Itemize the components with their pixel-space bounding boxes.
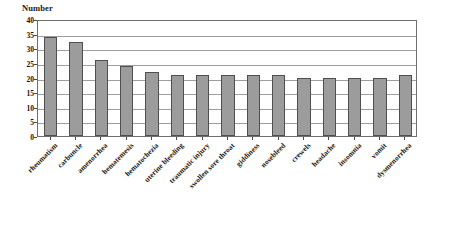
x-axis-tick-mark [303, 137, 304, 140]
x-axis-tick-mark [252, 137, 253, 140]
y-axis-tick-label: 25 [4, 59, 34, 68]
x-axis-tick-mark [404, 137, 405, 140]
bar [171, 75, 184, 136]
bar [221, 75, 234, 136]
bar [373, 78, 386, 137]
y-axis-tick-mark [34, 137, 37, 138]
x-axis-tick-label: vomit [369, 141, 388, 160]
bar [323, 78, 336, 137]
y-axis-tick-label: 0 [4, 133, 34, 142]
x-axis-tick-label: insomnia [336, 141, 363, 168]
bar [348, 78, 361, 137]
x-axis-tick-mark [75, 137, 76, 140]
plot-area [37, 20, 417, 137]
y-axis-tick-label: 15 [4, 89, 34, 98]
x-axis-tick-mark [227, 137, 228, 140]
x-axis-tick-mark [50, 137, 51, 140]
y-axis-tick-label: 40 [4, 16, 34, 25]
x-axis-tick-mark [354, 137, 355, 140]
bar [247, 75, 260, 136]
x-axis-tick-mark [176, 137, 177, 140]
x-axis-tick-label: headache [310, 141, 338, 169]
x-axis-tick-mark [202, 137, 203, 140]
bar [69, 42, 82, 136]
bar [399, 75, 412, 136]
x-axis-tick-label: rheumatism [25, 141, 59, 175]
bar [297, 78, 310, 137]
x-axis-tick-label: nosebleed [259, 141, 287, 169]
x-axis-tick-mark [151, 137, 152, 140]
x-axis-tick-mark [379, 137, 380, 140]
y-axis-tick-label: 30 [4, 45, 34, 54]
x-axis-tick-label: swollen sore throat [187, 141, 236, 190]
bar [95, 60, 108, 136]
bar [196, 75, 209, 136]
bar [272, 75, 285, 136]
y-axis-tick-label: 10 [4, 103, 34, 112]
bar [44, 37, 57, 136]
y-axis-tick-label: 20 [4, 74, 34, 83]
gridline [38, 50, 416, 51]
y-axis-tick-label: 5 [4, 118, 34, 127]
x-axis-tick-mark [328, 137, 329, 140]
x-axis-tick-mark [278, 137, 279, 140]
bar [145, 72, 158, 136]
x-axis-tick-mark [100, 137, 101, 140]
y-axis-title: Number [22, 3, 53, 13]
y-axis-tick-label: 35 [4, 30, 34, 39]
bar [120, 66, 133, 136]
x-axis-tick-label: giddiness [234, 141, 261, 168]
x-axis-tick-mark [126, 137, 127, 140]
bar-chart: Number 0510152025303540 rheumatismcarbun… [0, 0, 453, 227]
gridline [38, 36, 416, 37]
x-axis-tick-label: crewels [289, 141, 312, 164]
